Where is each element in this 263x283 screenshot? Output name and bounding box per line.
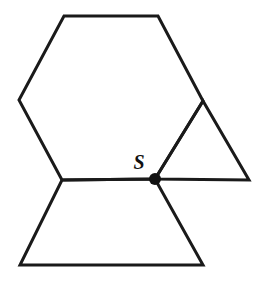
geometry-diagram: S bbox=[0, 0, 263, 283]
point-s-label: S bbox=[133, 151, 144, 173]
point-s-dot bbox=[149, 173, 161, 185]
figure-background bbox=[0, 0, 263, 283]
geometry-figure-canvas: S bbox=[0, 0, 263, 283]
